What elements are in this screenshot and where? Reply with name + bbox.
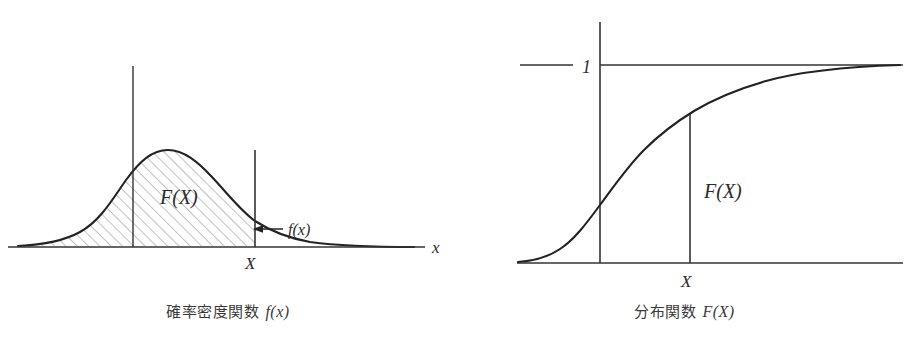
pdf-chart-svg: F(X) X f(x) x — [0, 0, 456, 300]
cdf-curve — [518, 65, 900, 262]
pdf-tick-label-X: X — [244, 254, 256, 273]
cdf-caption: 分布関数F(X) — [456, 300, 913, 321]
cdf-height-label-FX: F(X) — [703, 180, 742, 203]
pdf-caption-math: f(x) — [259, 303, 289, 320]
pdf-caption: 確率密度関数f(x) — [0, 300, 456, 321]
pdf-panel: F(X) X f(x) x 確率密度関数f(x) — [0, 0, 456, 345]
cdf-chart-svg: 1 F(X) X — [456, 0, 913, 300]
pdf-area-label: F(X) — [159, 186, 198, 209]
cdf-tick-label-X: X — [680, 272, 692, 291]
pdf-axis-label-x: x — [431, 238, 440, 257]
pdf-shaded-region — [18, 150, 255, 246]
cdf-caption-text: 分布関数 — [634, 303, 696, 321]
pdf-curve-label-fx: f(x) — [288, 221, 310, 239]
cdf-panel: 1 F(X) X 分布関数F(X) — [456, 0, 913, 345]
cdf-caption-math: F(X) — [696, 303, 734, 320]
pdf-fx-arrow — [253, 225, 283, 233]
cdf-asymptote-label-one: 1 — [582, 57, 591, 77]
pdf-caption-text: 確率密度関数 — [166, 303, 259, 321]
figure-root: F(X) X f(x) x 確率密度関数f(x) 1 F(X) — [0, 0, 913, 345]
